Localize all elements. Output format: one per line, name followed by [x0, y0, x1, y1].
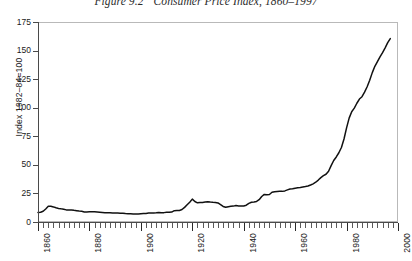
y-tick-175 [33, 22, 39, 23]
x-major-tick-1900 [141, 223, 142, 231]
y-axis-title: Index 1982–84=100 [14, 37, 24, 157]
x-minor-tick-1926 [208, 223, 209, 228]
x-minor-tick-1874 [74, 223, 75, 228]
x-minor-tick-1968 [316, 223, 317, 228]
x-major-tick-1960 [295, 223, 296, 231]
x-minor-tick-1972 [326, 223, 327, 228]
y-tick-label-0: 0 [0, 218, 31, 227]
y-tick-50 [33, 165, 39, 166]
y-tick-150 [33, 51, 39, 52]
x-minor-tick-1888 [110, 223, 111, 228]
x-minor-tick-1868 [59, 223, 60, 228]
x-minor-tick-1902 [146, 223, 147, 228]
x-minor-tick-1910 [167, 223, 168, 228]
x-minor-tick-1932 [223, 223, 224, 228]
x-minor-tick-1908 [161, 223, 162, 228]
x-minor-tick-1998 [393, 223, 394, 228]
x-minor-tick-1996 [388, 223, 389, 228]
cpi-series-line [38, 39, 390, 214]
x-minor-tick-1988 [367, 223, 368, 228]
x-minor-tick-1904 [151, 223, 152, 228]
x-tick-label-1920: 1920 [196, 233, 206, 253]
x-minor-tick-1944 [254, 223, 255, 228]
y-tick-label-175: 175 [0, 18, 31, 27]
x-minor-tick-1882 [95, 223, 96, 228]
y-tick-25 [33, 193, 39, 194]
x-minor-tick-1976 [336, 223, 337, 228]
figure-container: Figure 9.2Consumer Price Index, 1860–199… [0, 0, 412, 261]
x-tick-label-1940: 1940 [248, 233, 258, 253]
x-major-tick-1880 [89, 223, 90, 231]
x-tick-label-1980: 1980 [351, 233, 361, 253]
x-minor-tick-1936 [233, 223, 234, 228]
x-minor-tick-1992 [377, 223, 378, 228]
x-minor-tick-1894 [125, 223, 126, 228]
x-minor-tick-1912 [172, 223, 173, 228]
x-minor-tick-1916 [182, 223, 183, 228]
x-minor-tick-1950 [269, 223, 270, 228]
x-minor-tick-1866 [53, 223, 54, 228]
x-minor-tick-1984 [357, 223, 358, 228]
x-minor-tick-1896 [131, 223, 132, 228]
x-major-tick-2000 [398, 223, 399, 231]
x-minor-tick-1878 [84, 223, 85, 228]
x-major-tick-1860 [38, 223, 39, 231]
plot-canvas [38, 22, 398, 222]
x-minor-tick-1974 [331, 223, 332, 228]
x-minor-tick-1938 [239, 223, 240, 228]
x-minor-tick-1942 [249, 223, 250, 228]
x-minor-tick-1918 [187, 223, 188, 228]
x-minor-tick-1922 [197, 223, 198, 228]
x-minor-tick-1994 [383, 223, 384, 228]
x-minor-tick-1928 [213, 223, 214, 228]
x-minor-tick-1884 [100, 223, 101, 228]
x-minor-tick-1914 [177, 223, 178, 228]
x-minor-tick-1890 [115, 223, 116, 228]
x-minor-tick-1978 [341, 223, 342, 228]
x-minor-tick-1948 [264, 223, 265, 228]
x-major-tick-1920 [192, 223, 193, 231]
x-minor-tick-1924 [203, 223, 204, 228]
x-minor-tick-1876 [79, 223, 80, 228]
x-minor-tick-1956 [285, 223, 286, 228]
x-minor-tick-1966 [311, 223, 312, 228]
x-minor-tick-1970 [321, 223, 322, 228]
x-minor-tick-1906 [156, 223, 157, 228]
x-minor-tick-1886 [105, 223, 106, 228]
x-tick-label-1900: 1900 [145, 233, 155, 253]
x-major-tick-1940 [244, 223, 245, 231]
figure-number: Figure 9.2 [94, 0, 143, 7]
y-tick-label-25: 25 [0, 189, 31, 198]
x-minor-tick-1934 [228, 223, 229, 228]
x-minor-tick-1990 [372, 223, 373, 228]
x-tick-label-2000: 2000 [402, 233, 412, 253]
x-minor-tick-1946 [259, 223, 260, 228]
x-minor-tick-1892 [120, 223, 121, 228]
x-minor-tick-1872 [69, 223, 70, 228]
x-tick-label-1960: 1960 [299, 233, 309, 253]
figure-caption: Consumer Price Index, 1860–1997 [154, 0, 318, 7]
x-minor-tick-1986 [362, 223, 363, 228]
x-minor-tick-1930 [218, 223, 219, 228]
x-minor-tick-1864 [48, 223, 49, 228]
x-minor-tick-1862 [43, 223, 44, 228]
chart-title: Figure 9.2Consumer Price Index, 1860–199… [0, 0, 412, 7]
y-tick-125 [33, 79, 39, 80]
x-major-tick-1980 [347, 223, 348, 231]
x-minor-tick-1898 [136, 223, 137, 228]
y-tick-label-50: 50 [0, 160, 31, 169]
x-minor-tick-1958 [290, 223, 291, 228]
x-minor-tick-1870 [64, 223, 65, 228]
x-minor-tick-1964 [305, 223, 306, 228]
x-minor-tick-1962 [300, 223, 301, 228]
x-tick-label-1880: 1880 [93, 233, 103, 253]
x-tick-label-1860: 1860 [42, 233, 52, 253]
x-minor-tick-1952 [275, 223, 276, 228]
x-minor-tick-1954 [280, 223, 281, 228]
y-tick-100 [33, 108, 39, 109]
y-tick-75 [33, 136, 39, 137]
x-minor-tick-1982 [352, 223, 353, 228]
